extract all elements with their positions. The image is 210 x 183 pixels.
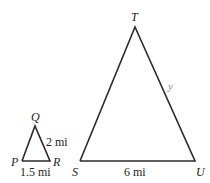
side-label-pr: 1.5 mi — [20, 165, 51, 179]
side-label-su: 6 mi — [124, 165, 146, 179]
similar-triangles-diagram: Q P R 2 mi 1.5 mi T S U y 6 mi — [0, 0, 210, 183]
vertex-label-t: T — [131, 10, 139, 24]
side-label-tu: y — [167, 80, 173, 92]
triangle-stu-outline — [80, 27, 195, 161]
vertex-label-q: Q — [31, 110, 40, 124]
vertex-label-p: P — [10, 155, 19, 169]
vertex-label-s: S — [72, 165, 78, 179]
side-label-qr: 2 mi — [46, 135, 68, 149]
triangle-stu: T S U y 6 mi — [72, 10, 206, 179]
vertex-label-u: U — [196, 165, 206, 179]
vertex-label-r: R — [52, 155, 61, 169]
triangle-pqr: Q P R 2 mi 1.5 mi — [10, 110, 68, 179]
